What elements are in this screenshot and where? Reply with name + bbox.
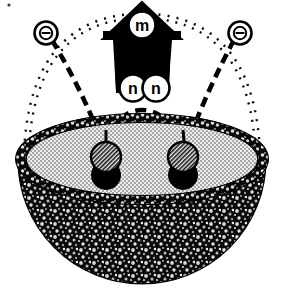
particle-top-sphere-right [168,142,198,172]
pair-label-left-text: n [128,80,138,97]
arrow-label-badge: m [129,12,156,39]
diagram-canvas: m n n Θ Θ [0,0,285,299]
particle-top-sphere-left [91,142,121,172]
arrow-label-text: m [135,17,149,34]
scan-speck [7,3,10,6]
theta-badge-right: Θ [229,22,252,45]
theta-badge-left: Θ [35,22,58,45]
figure-root: m n n Θ Θ [0,0,285,299]
hemisphere-bowl [16,114,269,284]
pair-label-right-text: n [151,80,161,97]
pair-badge-right: n [143,75,170,102]
